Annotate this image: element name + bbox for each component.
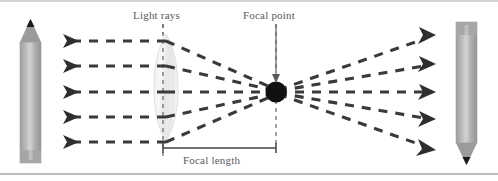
refracted-ray xyxy=(166,93,277,117)
focal-point-label: Focal point xyxy=(243,9,295,21)
focal-point-dot xyxy=(266,82,287,103)
lens-diagram-figure: Light rays Focal point Focal length xyxy=(0,0,498,181)
pencil-lead xyxy=(463,157,471,165)
diverging-rays-group xyxy=(278,39,424,146)
diverging-ray xyxy=(278,39,424,90)
arrowhead-icon xyxy=(63,110,79,124)
diverging-ray xyxy=(278,66,424,91)
vertical-dashed-axes xyxy=(163,24,276,156)
focal-length-label: Focal length xyxy=(183,154,240,166)
arrowhead-icon xyxy=(63,85,79,99)
refracted-ray xyxy=(166,66,277,91)
diverging-ray xyxy=(278,93,424,118)
light-rays-label: Light rays xyxy=(133,9,180,21)
refracted-ray xyxy=(166,94,277,142)
incoming-ray-arrowheads xyxy=(63,34,79,149)
refracted-ray xyxy=(166,41,277,90)
arrowhead-icon xyxy=(418,111,436,127)
arrowhead-icon xyxy=(63,135,79,149)
object-pencil xyxy=(20,19,41,163)
diagram-canvas xyxy=(0,0,498,181)
arrowhead-icon xyxy=(63,34,79,48)
biconvex-lens xyxy=(154,34,178,141)
image-pencil xyxy=(456,22,477,165)
pencil-lead xyxy=(27,19,35,27)
arrowhead-icon xyxy=(418,56,436,72)
pointer-arrowhead-icon xyxy=(272,74,280,83)
focal-point-pointer xyxy=(272,24,280,83)
focal-length-measure xyxy=(163,143,276,153)
arrowhead-icon xyxy=(63,59,79,73)
refracted-rays-group xyxy=(166,41,277,142)
arrowhead-icon xyxy=(418,27,436,44)
diverging-ray xyxy=(278,94,424,146)
arrowhead-icon xyxy=(416,139,436,156)
